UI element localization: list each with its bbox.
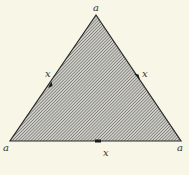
vertex-label-top: a (93, 2, 99, 13)
triangle-diagram: a a a x x x (0, 0, 189, 175)
vertex-label-bottom-left: a (3, 142, 9, 153)
triangle-shape (10, 15, 181, 141)
edge-label-left: x (45, 68, 51, 79)
bottom-edge-marker-icon (95, 140, 101, 143)
edge-label-bottom: x (103, 147, 109, 158)
vertex-label-bottom-right: a (177, 142, 183, 153)
edge-label-right: x (142, 68, 148, 79)
